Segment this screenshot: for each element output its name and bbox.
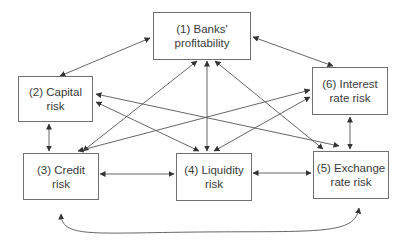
node-label-line1: (5) Exchange — [317, 161, 385, 175]
arrow-1-6 — [253, 37, 333, 66]
node-label-line2: risk — [37, 177, 85, 191]
arrow-2-4 — [96, 102, 199, 151]
node-liquidity-risk: (4) Liquidityrisk — [176, 153, 252, 201]
node-label-line1: (6) Interest — [322, 77, 378, 91]
arrow-3-5-curved — [61, 208, 359, 233]
node-label-line1: (2) Capital — [29, 85, 82, 99]
node-label-line2: risk — [29, 99, 82, 113]
node-label-line2: rate risk — [322, 91, 378, 105]
node-label-line1: (3) Credit — [37, 163, 85, 177]
node-label-line2: rate risk — [317, 175, 385, 189]
node-credit-risk: (3) Creditrisk — [23, 153, 99, 200]
node-label-line2: profitability — [175, 36, 230, 50]
node-exchange-rate-risk: (5) Exchangerate risk — [313, 151, 389, 199]
node-label-line1: (4) Liquidity — [184, 163, 243, 177]
arrow-1-5 — [215, 61, 323, 149]
node-interest-rate-risk: (6) Interestrate risk — [312, 67, 388, 115]
arrow-1-3 — [83, 61, 197, 151]
arrow-4-6 — [214, 97, 310, 151]
node-label-line2: risk — [184, 177, 243, 191]
node-label-line1: (1) Banks' — [175, 22, 230, 36]
arrow-2-5 — [96, 94, 339, 146]
arrow-3-6 — [78, 90, 310, 151]
node-banks-profitability: (1) Banks'profitability — [153, 12, 251, 60]
node-capital-risk: (2) Capitalrisk — [18, 76, 93, 122]
arrow-1-2 — [60, 38, 150, 76]
